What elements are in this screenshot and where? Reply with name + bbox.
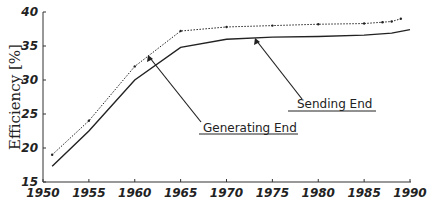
x-tick-label: 1975	[256, 186, 289, 200]
x-tick-label: 1965	[164, 186, 197, 200]
data-point	[134, 65, 136, 67]
y-ticks: 152025303540	[20, 5, 46, 189]
x-tick-label: 1950	[26, 186, 59, 200]
x-tick-label: 1990	[393, 186, 426, 200]
data-point	[225, 26, 227, 28]
y-tick-label: 40	[20, 5, 38, 19]
data-point	[381, 21, 383, 23]
data-point	[400, 18, 402, 20]
annotation-sending-end: Sending End	[254, 38, 376, 111]
x-tick-label: 1985	[347, 186, 380, 200]
arrow-line-sending	[256, 40, 302, 99]
data-point	[390, 20, 392, 22]
series-lines	[51, 18, 410, 167]
data-point	[88, 120, 90, 122]
data-point	[317, 23, 319, 25]
annotation-label-sending-end: Sending End	[297, 97, 372, 111]
x-tick-label: 1970	[210, 186, 243, 200]
annotation-generating-end: Generating End	[147, 55, 298, 135]
annotation-label-generating-end: Generating End	[203, 121, 297, 135]
arrow-line-generating	[150, 58, 201, 122]
x-tick-label: 1960	[118, 186, 151, 200]
data-point	[51, 154, 53, 156]
x-tick-label: 1980	[302, 186, 335, 200]
efficiency-line-chart: 152025303540 195019551960196519701975198…	[0, 0, 427, 203]
data-point	[363, 22, 365, 24]
y-axis-label: Efficiency [%]	[6, 44, 24, 150]
data-point	[271, 24, 273, 26]
data-point	[179, 30, 181, 32]
x-tick-label: 1955	[72, 186, 105, 200]
